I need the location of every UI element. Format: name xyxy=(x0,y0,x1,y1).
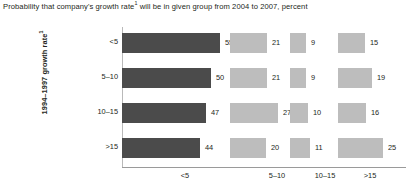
y-tick-label-2: 10–15 xyxy=(66,107,118,116)
bar xyxy=(230,138,266,158)
bar-value: 21 xyxy=(272,38,280,47)
bar-value: 25 xyxy=(388,143,396,152)
chart-title-rest: will be in given group from 2004 to 2007… xyxy=(137,2,307,11)
bar xyxy=(338,103,366,123)
bar xyxy=(122,68,211,88)
x-tick-label-3: >15 xyxy=(364,171,377,180)
chart-title: Probability that company's growth rate1 … xyxy=(3,2,308,12)
x-axis-tick-labels: <5 5–10 10–15 >15 xyxy=(122,171,406,185)
bar-value: 44 xyxy=(205,143,213,152)
growth-rate-probability-chart: Probability that company's growth rate1 … xyxy=(0,0,409,187)
bar-row: 50 21 9 19 xyxy=(122,62,406,97)
bar-row: 47 27 10 16 xyxy=(122,97,406,132)
x-tick-label-0: <5 xyxy=(181,171,189,180)
bar xyxy=(338,68,372,88)
bar-value: 50 xyxy=(216,73,224,82)
bar-value: 10 xyxy=(313,108,321,117)
bar xyxy=(230,103,278,123)
bar-value: 19 xyxy=(377,73,385,82)
y-axis-title-main: 1994–1997 growth rate xyxy=(40,34,49,115)
bar xyxy=(230,68,267,88)
bar xyxy=(290,103,308,123)
y-axis-title-footnote-marker: 1 xyxy=(38,31,44,34)
bar-value: 21 xyxy=(272,73,280,82)
y-tick-label-0: <5 xyxy=(66,37,118,46)
plot-area: 55 21 9 15 50 21 xyxy=(122,27,406,168)
chart-title-main: Probability that company's growth rate xyxy=(3,2,134,11)
y-tick-label-1: 5–10 xyxy=(66,72,118,81)
bar xyxy=(338,33,365,53)
bar-value: 11 xyxy=(315,143,323,152)
bar-value: 15 xyxy=(370,38,378,47)
bar-value: 20 xyxy=(271,143,279,152)
y-axis-tick-labels: <5 5–10 10–15 >15 xyxy=(62,27,118,168)
x-tick-label-2: 10–15 xyxy=(315,171,336,180)
bar xyxy=(290,33,306,53)
bar-value: 16 xyxy=(371,108,379,117)
bar xyxy=(122,138,200,158)
bar-value: 47 xyxy=(211,108,219,117)
bar-value: 9 xyxy=(311,38,315,47)
bar-row: 44 20 11 25 xyxy=(122,132,406,167)
bar-row: 55 21 9 15 xyxy=(122,27,406,62)
y-axis-title: 1994–1997 growth rate1 xyxy=(40,8,49,138)
y-tick-label-3: >15 xyxy=(66,142,118,151)
bar xyxy=(122,33,220,53)
bar-value: 9 xyxy=(311,73,315,82)
bar xyxy=(338,138,383,158)
bar xyxy=(230,33,267,53)
bar xyxy=(290,68,306,88)
bar xyxy=(290,138,310,158)
bar xyxy=(122,103,206,123)
x-tick-label-1: 5–10 xyxy=(269,171,285,180)
